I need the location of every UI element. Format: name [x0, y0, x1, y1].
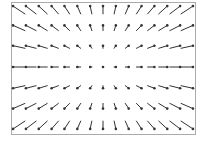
- arrow: [37, 121, 47, 130]
- arrow: [12, 44, 25, 48]
- arrow: [114, 103, 117, 109]
- arrow: [50, 24, 58, 31]
- arrow: [50, 44, 58, 48]
- arrow: [148, 24, 156, 31]
- arrow: [114, 44, 117, 48]
- arrow: [125, 44, 130, 48]
- arrow: [159, 24, 169, 31]
- arrow: [181, 24, 194, 31]
- arrow: [181, 86, 194, 90]
- arrow: [148, 5, 156, 14]
- arrow: [76, 44, 81, 48]
- arrow: [63, 121, 69, 130]
- arrow: [114, 66, 117, 69]
- arrow: [125, 5, 130, 14]
- arrow: [50, 121, 58, 130]
- arrow: [50, 86, 58, 90]
- arrow: [136, 5, 142, 14]
- arrow: [37, 66, 47, 69]
- arrow: [170, 5, 182, 14]
- arrow: [170, 44, 182, 48]
- arrow: [102, 5, 105, 14]
- arrow: [181, 66, 194, 69]
- arrow: [159, 103, 169, 109]
- arrow: [181, 103, 194, 109]
- arrow: [125, 24, 130, 31]
- arrow: [114, 121, 117, 130]
- arrow-field: [12, 5, 195, 130]
- arrow: [125, 121, 130, 130]
- arrow: [159, 5, 169, 14]
- arrow: [102, 24, 105, 31]
- arrow: [12, 86, 25, 90]
- arrow: [63, 103, 69, 109]
- arrow: [102, 121, 105, 130]
- arrow: [148, 86, 156, 90]
- arrow: [89, 5, 92, 14]
- arrow: [114, 86, 117, 90]
- plot-frame: [12, 3, 196, 135]
- arrow: [63, 66, 69, 69]
- arrow: [63, 5, 69, 14]
- arrow: [76, 121, 81, 130]
- arrow: [12, 5, 25, 14]
- arrow: [136, 24, 142, 31]
- arrow: [12, 121, 25, 130]
- arrow: [136, 121, 142, 130]
- arrow: [12, 103, 25, 109]
- arrow: [114, 24, 117, 31]
- arrow: [37, 24, 47, 31]
- arrow: [148, 66, 156, 69]
- arrow: [102, 44, 105, 48]
- arrow: [63, 44, 69, 48]
- arrow: [50, 103, 58, 109]
- arrow: [76, 24, 81, 31]
- arrow: [25, 44, 36, 48]
- arrow: [159, 44, 169, 48]
- arrow: [125, 86, 130, 90]
- arrow: [170, 103, 182, 109]
- arrow: [37, 44, 47, 48]
- arrow: [148, 103, 156, 109]
- arrow: [89, 24, 92, 31]
- arrow: [76, 5, 81, 14]
- arrow: [63, 86, 69, 90]
- arrow: [25, 121, 36, 130]
- arrow: [170, 24, 182, 31]
- arrow: [159, 66, 169, 69]
- arrow: [148, 44, 156, 48]
- arrow: [76, 66, 81, 69]
- arrow: [181, 121, 194, 130]
- arrow: [25, 103, 36, 109]
- quiver-plot: [0, 0, 197, 147]
- arrow: [89, 44, 92, 48]
- arrow: [102, 66, 105, 69]
- arrow: [114, 5, 117, 14]
- arrow: [37, 103, 47, 109]
- arrow: [159, 121, 169, 130]
- arrow: [170, 66, 182, 69]
- arrow: [12, 66, 25, 69]
- arrow: [148, 121, 156, 130]
- arrow: [89, 121, 92, 130]
- arrow: [12, 24, 25, 31]
- arrow: [63, 24, 69, 31]
- arrow: [102, 103, 105, 109]
- arrow: [76, 86, 81, 90]
- arrow: [25, 5, 36, 14]
- arrow: [89, 86, 92, 90]
- arrow: [136, 86, 142, 90]
- arrow: [136, 44, 142, 48]
- arrow: [25, 24, 36, 31]
- arrow: [136, 66, 142, 69]
- arrow: [181, 5, 194, 14]
- arrow: [125, 66, 130, 69]
- arrow: [89, 66, 92, 69]
- arrow: [125, 103, 130, 109]
- arrow: [159, 86, 169, 90]
- arrow: [76, 103, 81, 109]
- arrow: [37, 5, 47, 14]
- arrow: [50, 5, 58, 14]
- arrow: [136, 103, 142, 109]
- arrow: [50, 66, 58, 69]
